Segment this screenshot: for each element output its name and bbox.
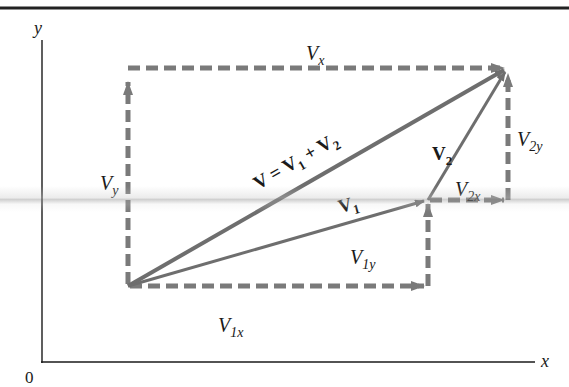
v2y-label: V2y [517, 128, 543, 154]
vector-v1-label: V1 [336, 191, 362, 220]
x-axis-label: x [540, 351, 549, 371]
y-axis-label: y [32, 18, 42, 38]
vx-label: Vx [306, 42, 325, 68]
v1y-label: V1y [350, 246, 376, 272]
resultant-vector-v [128, 70, 504, 286]
vy-label: Vy [100, 172, 119, 198]
origin-label: 0 [25, 368, 34, 387]
vectors [128, 70, 505, 286]
axes [41, 40, 535, 363]
v1x-label: V1x [218, 314, 244, 340]
vector-v2-label: V2 [432, 143, 452, 168]
resultant-vector-label: V = V1 + V2 [250, 128, 344, 197]
vector-v1 [128, 201, 424, 286]
vector-diagram: y x 0 Vx Vy V1x V1y V2x V2y V = V1 + V2 … [0, 0, 569, 387]
